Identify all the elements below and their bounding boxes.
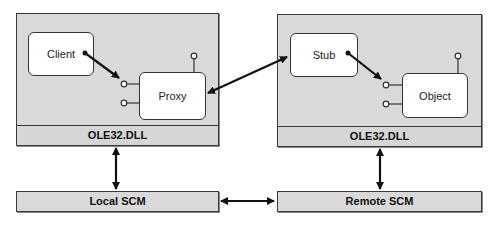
object-box: Object bbox=[402, 73, 468, 118]
client-box: Client bbox=[28, 32, 94, 76]
stub-label: Stub bbox=[313, 49, 336, 61]
proxy-box: Proxy bbox=[139, 72, 206, 120]
object-label: Object bbox=[419, 90, 451, 102]
remote-ole32-dll-bar: OLE32.DLL bbox=[278, 126, 481, 146]
local-ole32-dll-bar: OLE32.DLL bbox=[17, 125, 218, 145]
local-scm-box: Local SCM bbox=[16, 191, 219, 212]
proxy-label: Proxy bbox=[158, 90, 186, 102]
stub-box: Stub bbox=[290, 33, 358, 77]
client-label: Client bbox=[47, 48, 75, 60]
remote-scm-box: Remote SCM bbox=[277, 191, 482, 212]
